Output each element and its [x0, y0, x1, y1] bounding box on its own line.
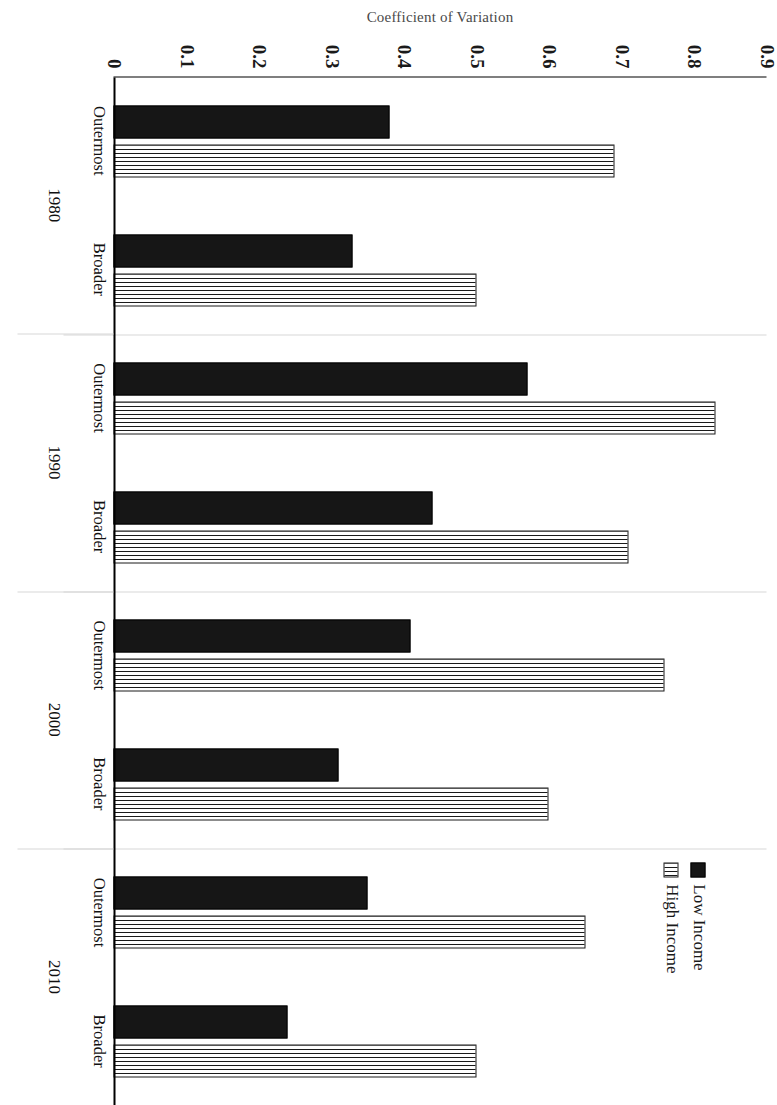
category-label: Outermost [88, 105, 108, 175]
y-tick-label: 0.5 [465, 44, 487, 68]
year-label-2000: 2000 [25, 591, 67, 848]
year-label-1980: 1980 [25, 76, 67, 333]
category-tick-broader: Broader [67, 976, 113, 1105]
bar-high-income[interactable] [113, 915, 585, 948]
category-axis: OutermostBroaderOutermostBroaderOutermos… [67, 76, 113, 1105]
category-label: Broader [88, 500, 108, 553]
bar-high-income[interactable] [113, 530, 628, 563]
y-axis-title: Coefficient of Variation [113, 6, 766, 28]
chart-legend: Low IncomeHigh Income [661, 862, 708, 973]
category-tick-outermost: Outermost [67, 76, 113, 205]
year-label-1990: 1990 [25, 333, 67, 590]
bar-low-income[interactable] [113, 876, 367, 909]
bar-low-income[interactable] [113, 234, 352, 267]
bar-pair-2010-broader [113, 977, 766, 1105]
y-tick-label: 0.6 [537, 44, 559, 68]
category-tick-broader: Broader [67, 462, 113, 591]
legend-swatch-icon [691, 862, 706, 877]
y-axis-title-text: Coefficient of Variation [366, 9, 513, 26]
bar-pair-1990-broader [113, 463, 766, 592]
category-tick-broader: Broader [67, 719, 113, 848]
category-label: Broader [88, 1014, 108, 1067]
bar-pair-2000-broader [113, 720, 766, 849]
category-label: Outermost [88, 363, 108, 433]
category-label: Outermost [88, 877, 108, 947]
bar-pair-1980-outermost [113, 77, 766, 206]
bar-high-income[interactable] [113, 658, 664, 691]
year-label-2010: 2010 [25, 848, 67, 1105]
y-tick-label: 0.3 [320, 44, 342, 68]
bar-low-income[interactable] [113, 1005, 287, 1038]
legend-swatch-icon [664, 862, 679, 877]
category-label-group-2010: OutermostBroader [67, 848, 113, 1105]
bar-group-1990 [113, 334, 766, 591]
bar-high-income[interactable] [113, 787, 548, 820]
y-tick-label: 0.2 [247, 44, 269, 68]
legend-label: Low Income [688, 884, 708, 970]
bar-low-income[interactable] [113, 748, 338, 781]
category-label-group-1990: OutermostBroader [67, 333, 113, 590]
bar-group-1980 [113, 77, 766, 334]
bar-group-2000 [113, 591, 766, 848]
category-label-group-1980: OutermostBroader [67, 76, 113, 333]
y-tick-label: 0 [102, 59, 124, 69]
bar-high-income[interactable] [113, 1044, 476, 1077]
bar-pair-2000-outermost [113, 591, 766, 720]
y-tick-label: 0.4 [392, 44, 414, 68]
category-label: Broader [88, 757, 108, 810]
bar-high-income[interactable] [113, 144, 614, 177]
y-tick-label: 0.7 [610, 44, 632, 68]
bar-low-income[interactable] [113, 362, 527, 395]
bar-low-income[interactable] [113, 105, 389, 138]
legend-item-high-income[interactable]: High Income [661, 862, 681, 973]
category-tick-outermost: Outermost [67, 333, 113, 462]
bar-pair-1990-outermost [113, 334, 766, 463]
year-axis: 1980199020002010 [25, 76, 67, 1105]
y-tick-label: 0.9 [755, 44, 777, 68]
category-tick-outermost: Outermost [67, 848, 113, 977]
category-label-group-2000: OutermostBroader [67, 591, 113, 848]
bar-low-income[interactable] [113, 491, 432, 524]
y-axis-ticks: 0.90.80.70.60.50.40.30.20.10 [113, 28, 766, 74]
bar-high-income[interactable] [113, 273, 476, 306]
legend-item-low-income[interactable]: Low Income [688, 862, 708, 973]
category-label: Broader [88, 242, 108, 295]
bar-low-income[interactable] [113, 619, 410, 652]
y-tick-label: 0.1 [175, 44, 197, 68]
legend-label: High Income [661, 884, 681, 973]
category-tick-outermost: Outermost [67, 591, 113, 720]
category-label: Outermost [88, 620, 108, 690]
bar-high-income[interactable] [113, 401, 715, 434]
bar-pair-1980-broader [113, 206, 766, 335]
category-tick-broader: Broader [67, 205, 113, 334]
y-tick-label: 0.8 [682, 44, 704, 68]
